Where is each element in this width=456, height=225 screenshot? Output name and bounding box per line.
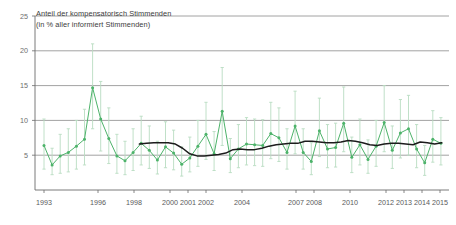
data-point [415,147,418,150]
chart-title-block: Anteil der kompensatorisch Stimmenden (i… [36,9,171,30]
data-point [261,144,264,147]
data-point [59,154,62,157]
trend-polyline [139,141,441,156]
data-point [399,131,402,134]
data-series-line [44,88,441,165]
data-point [367,158,370,161]
data-point [132,151,135,154]
data-point [277,136,280,139]
errorbars-group [42,44,442,176]
data-point [407,127,410,130]
trend-line [139,141,441,156]
data-point [294,124,297,127]
data-point [91,86,94,89]
xtick-label-1996: 1996 [90,198,106,207]
xtick-label-2010: 2010 [342,198,358,207]
xtick-label-2007: 2007 [288,198,304,207]
data-point [269,132,272,135]
data-point [334,146,337,149]
chart-title: Anteil der kompensatorisch Stimmenden [36,9,171,20]
data-point [310,160,313,163]
data-point [188,156,191,159]
chart-subtitle: (in % aller informiert Stimmenden) [36,20,171,31]
data-point [148,149,151,152]
data-point [391,149,394,152]
xtick-label-2012: 2012 [378,198,394,207]
data-point [431,138,434,141]
chart-container: Anteil der kompensatorisch Stimmenden (i… [0,0,456,225]
data-point [326,147,329,150]
data-point [205,133,208,136]
xtick-label-2015: 2015 [432,198,448,207]
data-point [180,163,183,166]
data-point [43,144,46,147]
xtick-label-1998: 1998 [126,198,142,207]
data-point [245,143,248,146]
data-point [107,137,110,140]
ytick-label-10: 10 [12,116,28,125]
ytick-label-5: 5 [12,151,28,160]
data-point [164,145,167,148]
data-point [51,163,54,166]
xtick-label-2002: 2002 [198,198,214,207]
xtick-label-2000: 2000 [162,198,178,207]
data-point [253,143,256,146]
xtick-label-2008: 2008 [306,198,322,207]
series-polyline [44,88,441,165]
data-point [67,151,70,154]
data-point [115,154,118,157]
xtick-label-2001: 2001 [180,198,196,207]
ytick-label-20: 20 [12,46,28,55]
xtick-label-2013: 2013 [396,198,412,207]
chart-plot-area [0,0,456,225]
data-point [358,143,361,146]
data-point [229,157,232,160]
ytick-label-25: 25 [12,12,28,21]
data-point [302,151,305,154]
data-point [221,110,224,113]
ytick-label-15: 15 [12,81,28,90]
data-point [196,145,199,148]
data-point [172,152,175,155]
xtick-label-2004: 2004 [234,198,250,207]
data-point [423,161,426,164]
data-point [350,156,353,159]
data-point [99,118,102,121]
data-point [124,159,127,162]
data-point [342,122,345,125]
gridlines-group [35,16,449,155]
data-point [83,138,86,141]
data-point [156,159,159,162]
data-point [75,145,78,148]
data-point [383,121,386,124]
data-point [318,129,321,132]
xtick-label-1993: 1993 [36,198,52,207]
axis-group [32,16,449,190]
xtick-label-2014: 2014 [414,198,430,207]
data-point [286,151,289,154]
